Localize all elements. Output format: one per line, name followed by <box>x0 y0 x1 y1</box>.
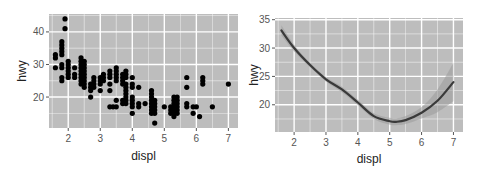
data-point <box>59 65 64 70</box>
data-point <box>91 85 96 90</box>
x-tick-label: 3 <box>323 137 329 148</box>
x-tick-label: 5 <box>387 137 393 148</box>
data-point <box>114 98 119 103</box>
data-point <box>72 65 77 70</box>
data-point <box>184 85 189 90</box>
data-point <box>191 111 196 116</box>
data-point <box>194 104 199 109</box>
y-tick-label: 30 <box>259 43 271 54</box>
data-point <box>53 65 58 70</box>
data-point <box>210 104 215 109</box>
data-point <box>130 104 135 109</box>
data-point <box>123 75 128 80</box>
scatter-plot: 234567203040displhwy <box>0 0 240 177</box>
x-tick-label: 3 <box>97 133 103 144</box>
x-tick-label: 5 <box>162 133 168 144</box>
data-point <box>62 26 67 31</box>
data-point <box>175 111 180 116</box>
data-point <box>114 104 119 109</box>
x-tick-label: 7 <box>226 133 232 144</box>
plot-panel <box>49 14 238 128</box>
y-axis-label: hwy <box>15 60 29 81</box>
x-tick-label: 2 <box>291 137 297 148</box>
data-point <box>152 111 157 116</box>
data-point <box>226 81 231 86</box>
data-point <box>59 52 64 57</box>
y-axis-label: hwy <box>247 64 261 85</box>
y-tick-label: 30 <box>33 59 45 70</box>
data-point <box>66 75 71 80</box>
data-point <box>98 88 103 93</box>
x-axis-label: displ <box>357 152 382 166</box>
y-tick-label: 40 <box>33 26 45 37</box>
data-point <box>162 104 167 109</box>
x-axis-label: displ <box>131 149 156 163</box>
data-point <box>72 75 77 80</box>
data-point <box>53 55 58 60</box>
x-tick-label: 6 <box>419 137 425 148</box>
data-point <box>123 101 128 106</box>
data-point <box>184 104 189 109</box>
data-point <box>59 78 64 83</box>
y-tick-label: 20 <box>33 92 45 103</box>
data-point <box>62 16 67 21</box>
data-point <box>130 75 135 80</box>
smooth-plot: 23456720253035displhwy <box>240 0 479 177</box>
x-tick-label: 7 <box>451 137 457 148</box>
data-point <box>107 88 112 93</box>
data-point <box>136 85 141 90</box>
data-point <box>143 101 148 106</box>
data-point <box>114 78 119 83</box>
x-tick-label: 4 <box>130 133 136 144</box>
data-point <box>184 75 189 80</box>
y-tick-label: 35 <box>259 14 271 25</box>
x-tick-label: 4 <box>355 137 361 148</box>
data-point <box>197 114 202 119</box>
data-point <box>130 85 135 90</box>
data-point <box>101 78 106 83</box>
data-point <box>107 75 112 80</box>
data-point <box>152 121 157 126</box>
data-point <box>136 104 141 109</box>
x-tick-label: 2 <box>65 133 71 144</box>
data-point <box>88 94 93 99</box>
x-tick-label: 6 <box>194 133 200 144</box>
data-point <box>107 81 112 86</box>
y-tick-label: 20 <box>259 99 271 110</box>
data-point <box>130 111 135 116</box>
data-point <box>200 81 205 86</box>
data-point <box>82 85 87 90</box>
